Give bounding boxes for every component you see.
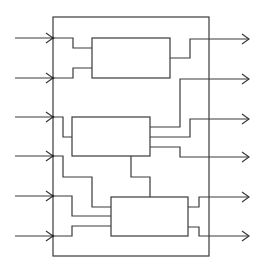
wire-block-1-to-output-1 bbox=[170, 39, 209, 58]
input-1-arrow bbox=[15, 33, 54, 43]
output-1-arrow bbox=[209, 34, 249, 44]
wire-input-4-to-block-3 bbox=[53, 156, 111, 207]
wire-block-3-to-output-6 bbox=[188, 227, 209, 236]
input-3-arrow bbox=[15, 112, 54, 122]
output-arrows bbox=[209, 34, 249, 241]
block-1 bbox=[92, 38, 170, 78]
output-2-arrow bbox=[209, 74, 249, 84]
input-arrows bbox=[15, 33, 54, 241]
input-2-arrow bbox=[15, 73, 54, 83]
output-3-arrow bbox=[209, 114, 249, 124]
input-5-arrow bbox=[15, 191, 54, 201]
wire-block-3-to-output-5 bbox=[188, 197, 209, 207]
wire-input-1-to-block-1 bbox=[53, 38, 92, 48]
wire-block-2-to-output-2 bbox=[150, 79, 209, 127]
block-diagram bbox=[0, 0, 262, 270]
block-2 bbox=[72, 117, 150, 156]
output-5-arrow bbox=[209, 192, 249, 202]
wire-input-2-to-block-1 bbox=[53, 68, 92, 78]
wire-input-5-to-block-3 bbox=[53, 196, 111, 216]
input-4-arrow bbox=[15, 151, 54, 161]
input-6-arrow bbox=[15, 231, 54, 241]
wire-block-2-to-block-3 bbox=[131, 156, 150, 197]
block-3 bbox=[111, 197, 188, 236]
wire-block-2-to-output-4 bbox=[150, 147, 209, 157]
wire-input-6-to-block-3 bbox=[53, 226, 111, 236]
wire-input-3-to-block-2 bbox=[53, 117, 72, 137]
output-4-arrow bbox=[209, 152, 249, 162]
output-6-arrow bbox=[209, 231, 249, 241]
